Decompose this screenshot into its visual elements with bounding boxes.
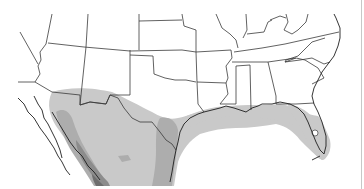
range-map bbox=[0, 0, 364, 189]
frame-edge bbox=[361, 0, 362, 189]
map-canvas bbox=[0, 0, 364, 189]
